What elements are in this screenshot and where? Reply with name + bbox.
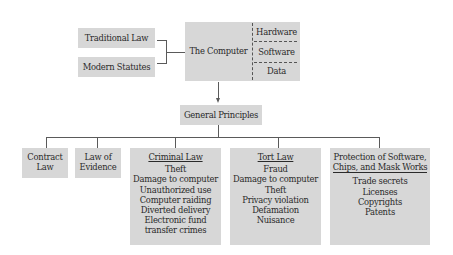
general-principles-label: General Principles <box>184 110 258 120</box>
list-item: Damage to computer <box>130 174 221 184</box>
tree-drop-evidence <box>97 137 98 148</box>
tree-drop-contract <box>46 137 47 148</box>
list-item: Theft <box>230 185 321 195</box>
general-principles-box: General Principles <box>180 105 262 125</box>
computer-part-data: Data <box>253 62 300 81</box>
modern-statutes-box: Modern Statutes <box>78 57 155 77</box>
list-item: Licenses <box>330 187 430 197</box>
tree-stem <box>218 125 219 137</box>
arrow-down-icon <box>216 98 220 103</box>
list-item: Diverted delivery <box>130 205 221 215</box>
list-item: Theft <box>130 164 221 174</box>
tort-law-box: Tort Law Fraud Damage to computer Theft … <box>230 148 321 245</box>
bracket-to-computer <box>166 52 185 53</box>
list-item: Computer raiding <box>130 195 221 205</box>
list-item: transfer crimes <box>130 225 221 235</box>
traditional-law-box: Traditional Law <box>78 28 155 48</box>
protection-box: Protection of Software, Chips, and Mask … <box>330 148 430 245</box>
list-item: Nuisance <box>230 215 321 225</box>
list-item: Privacy violation <box>230 195 321 205</box>
protection-title: Protection of Software, Chips, and Mask … <box>333 152 428 173</box>
computer-part-software: Software <box>253 42 300 62</box>
traditional-law-label: Traditional Law <box>85 33 148 43</box>
list-item: Patents <box>330 207 430 217</box>
list-item: Unauthorized use <box>130 185 221 195</box>
diagram-canvas: Traditional Law Modern Statutes The Comp… <box>0 0 453 255</box>
criminal-law-title: Criminal Law <box>148 152 202 162</box>
tree-drop-tort <box>278 137 279 148</box>
criminal-law-box: Criminal Law Theft Damage to computer Un… <box>130 148 221 245</box>
list-item: Defamation <box>230 205 321 215</box>
law-of-evidence-box: Law of Evidence <box>75 148 121 178</box>
list-item: Fraud <box>230 164 321 174</box>
tree-drop-criminal <box>175 137 176 148</box>
computer-part-hardware: Hardware <box>253 22 300 42</box>
contract-law-box: Contract Law <box>22 148 68 178</box>
computer-label: The Computer <box>189 46 247 56</box>
tree-drop-protection <box>379 137 380 148</box>
list-item: Electronic fund <box>130 215 221 225</box>
computer-box: The Computer Hardware Software Data <box>185 22 300 81</box>
computer-label-wrap: The Computer <box>185 22 252 81</box>
modern-statutes-label: Modern Statutes <box>83 62 151 72</box>
list-item: Damage to computer <box>230 174 321 184</box>
arrow-shaft <box>218 82 219 99</box>
list-item: Trade secrets <box>330 176 430 186</box>
tort-law-title: Tort Law <box>258 152 294 162</box>
list-item: Copyrights <box>330 197 430 207</box>
